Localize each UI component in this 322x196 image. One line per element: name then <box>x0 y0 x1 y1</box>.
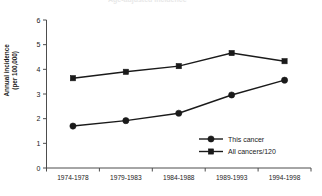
x-tick-label: 1984-1988 <box>163 174 195 181</box>
y-tick-label: 5 <box>37 41 41 48</box>
y-tick-label: 4 <box>37 66 41 73</box>
line-chart-svg: 0123456 1974-19781979-19831984-19881989-… <box>0 0 322 196</box>
cropped-header-text: Age-adjusted incidence <box>108 0 258 4</box>
legend-marker <box>208 136 214 142</box>
y-tick-label: 1 <box>37 140 41 147</box>
y-tick-label: 3 <box>37 91 41 98</box>
x-tick-label: 1979-1983 <box>110 174 142 181</box>
series-1 <box>70 77 288 129</box>
legend-item-1[interactable]: This cancer <box>199 136 265 143</box>
legend-marker <box>208 149 213 154</box>
data-point <box>176 64 181 69</box>
x-axis-ticks: 1974-19781979-19831984-19881989-19931994… <box>47 168 312 181</box>
data-point <box>229 92 235 98</box>
data-point <box>123 69 128 74</box>
y-axis-title: Annual incidence (per 100,000) <box>3 27 20 113</box>
y-tick-label: 6 <box>37 17 41 24</box>
y-axis-title-line-1: Annual incidence <box>3 27 11 113</box>
x-tick-label: 1994-1998 <box>269 174 301 181</box>
data-point <box>70 123 76 129</box>
chart-container: Age-adjusted incidence Annual incidence … <box>0 0 322 196</box>
x-tick-label: 1989-1993 <box>216 174 248 181</box>
series-line <box>73 80 285 126</box>
data-point <box>282 59 287 64</box>
data-point <box>281 77 287 83</box>
series-2 <box>70 50 287 80</box>
data-point <box>176 110 182 116</box>
legend-label: This cancer <box>228 136 265 143</box>
data-point <box>70 76 75 81</box>
data-point <box>229 50 234 55</box>
data-point <box>123 118 129 124</box>
legend-item-2[interactable]: All cancers/120 <box>199 148 276 155</box>
chart-legend: This cancerAll cancers/120 <box>199 136 276 156</box>
y-tick-label: 2 <box>37 115 41 122</box>
y-axis-ticks: 0123456 <box>37 17 47 172</box>
y-axis-title-line-2: (per 100,000) <box>11 27 19 113</box>
legend-label: All cancers/120 <box>228 148 276 155</box>
x-tick-label: 1974-1978 <box>57 174 89 181</box>
series-layer <box>70 50 288 129</box>
y-tick-label: 0 <box>37 165 41 172</box>
